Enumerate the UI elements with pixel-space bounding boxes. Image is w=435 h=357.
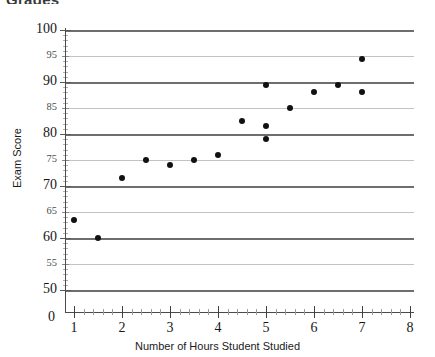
y-tick-label-70: 70 <box>43 177 57 193</box>
x-minor-tick <box>180 309 181 315</box>
x-minor-tick <box>391 309 392 315</box>
x-minor-tick <box>103 309 104 315</box>
gridline-y-60 <box>66 238 414 240</box>
x-tick-4 <box>218 306 219 318</box>
gridline-y-90 <box>66 82 414 84</box>
y-tick-label-80: 80 <box>43 125 57 141</box>
gridline-y-65 <box>66 212 414 213</box>
y-axis-title: Exam Score <box>11 108 23 208</box>
x-minor-tick <box>304 309 305 315</box>
y-tick-label-100: 100 <box>36 21 57 37</box>
x-minor-tick <box>199 309 200 315</box>
gridline-y-55 <box>66 264 414 265</box>
x-minor-tick <box>381 309 382 315</box>
gridline-y-80 <box>66 134 414 136</box>
data-point <box>143 157 149 163</box>
x-tick-label-1: 1 <box>59 320 89 336</box>
y-tick-label-95: 95 <box>47 49 58 60</box>
x-minor-tick <box>372 309 373 315</box>
data-point <box>71 217 77 223</box>
x-minor-tick <box>285 309 286 315</box>
x-tick-7 <box>362 306 363 318</box>
data-point <box>167 162 173 168</box>
data-point <box>119 175 125 181</box>
y-tick-label-75: 75 <box>47 153 58 164</box>
data-point <box>215 152 221 158</box>
y-tick-label-65: 65 <box>47 205 58 216</box>
x-minor-tick <box>84 309 85 315</box>
x-minor-tick <box>141 309 142 315</box>
x-minor-tick <box>228 309 229 315</box>
data-point <box>263 123 269 129</box>
x-minor-tick <box>151 309 152 315</box>
x-minor-tick <box>189 309 190 315</box>
data-point <box>239 118 245 124</box>
x-tick-label-4: 4 <box>203 320 233 336</box>
x-tick-1 <box>74 306 75 318</box>
gridline-y-70 <box>66 186 414 188</box>
x-minor-tick <box>160 309 161 315</box>
scatter-chart: Grades 50556065707580859095100 12345678 … <box>0 0 435 357</box>
x-minor-tick <box>352 309 353 315</box>
data-point <box>263 136 269 142</box>
x-axis-title: Number of Hours Student Studied <box>0 340 435 352</box>
x-tick-label-6: 6 <box>299 320 329 336</box>
x-minor-tick <box>93 309 94 315</box>
y-tick-label-60: 60 <box>43 229 57 245</box>
gridline-y-85 <box>66 108 414 109</box>
data-point <box>263 82 269 88</box>
origin-label: 0 <box>48 309 55 325</box>
data-point <box>287 105 293 111</box>
x-minor-tick <box>324 309 325 315</box>
data-point <box>311 89 317 95</box>
x-minor-tick <box>276 309 277 315</box>
x-minor-tick <box>333 309 334 315</box>
y-axis-line <box>65 28 66 313</box>
x-minor-tick <box>295 309 296 315</box>
x-minor-tick <box>400 309 401 315</box>
x-minor-tick <box>208 309 209 315</box>
x-tick-label-7: 7 <box>347 320 377 336</box>
y-tick-label-85: 85 <box>47 101 58 112</box>
x-tick-5 <box>266 306 267 318</box>
gridline-y-75 <box>66 160 414 161</box>
x-minor-tick <box>247 309 248 315</box>
x-tick-3 <box>170 306 171 318</box>
plot-area: 50556065707580859095100 12345678 0 <box>0 0 435 357</box>
x-minor-tick <box>237 309 238 315</box>
data-point <box>335 82 341 88</box>
x-tick-2 <box>122 306 123 318</box>
x-minor-tick <box>343 309 344 315</box>
data-point <box>359 56 365 62</box>
gridline-y-50 <box>66 290 414 292</box>
x-tick-label-8: 8 <box>395 320 425 336</box>
x-tick-label-3: 3 <box>155 320 185 336</box>
x-minor-tick <box>112 309 113 315</box>
y-tick-label-55: 55 <box>47 257 58 268</box>
x-minor-tick <box>132 309 133 315</box>
x-tick-8 <box>410 306 411 318</box>
gridline-y-100 <box>66 30 414 32</box>
x-tick-label-5: 5 <box>251 320 281 336</box>
x-tick-6 <box>314 306 315 318</box>
data-point <box>359 89 365 95</box>
x-tick-label-2: 2 <box>107 320 137 336</box>
y-tick-label-90: 90 <box>43 73 57 89</box>
y-tick-label-50: 50 <box>43 281 57 297</box>
x-minor-tick <box>256 309 257 315</box>
data-point <box>191 157 197 163</box>
data-point <box>95 235 101 241</box>
